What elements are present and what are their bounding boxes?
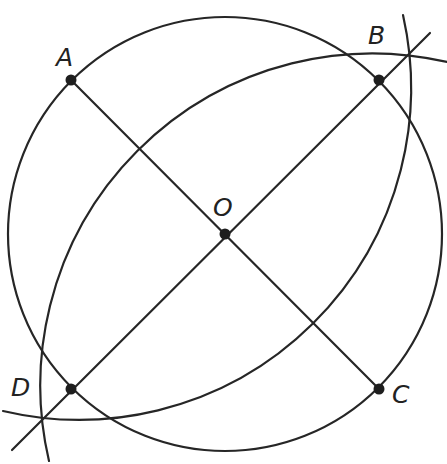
point-D <box>66 384 77 395</box>
label-A: A <box>54 43 73 72</box>
label-D: D <box>11 373 30 402</box>
arc-centered-near-C <box>40 53 447 461</box>
label-C: C <box>392 380 410 409</box>
label-B: B <box>368 21 385 50</box>
point-A <box>66 75 77 86</box>
point-C <box>374 384 385 395</box>
construction-diagram: A B C D O <box>0 0 447 464</box>
label-O: O <box>213 193 233 222</box>
point-B <box>374 75 385 86</box>
point-O <box>220 229 231 240</box>
